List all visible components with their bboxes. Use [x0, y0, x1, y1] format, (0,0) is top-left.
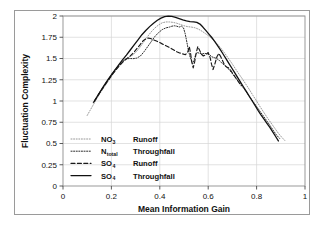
- legend-label-suffix: Throughfall: [133, 172, 175, 181]
- y-tick-label: 0.75: [41, 118, 57, 127]
- y-tick-label: 1: [53, 97, 58, 106]
- y-tick-label: 2: [53, 12, 58, 21]
- x-tick-label: 0.6: [203, 192, 215, 201]
- x-axis-title: Mean Information Gain: [138, 204, 230, 214]
- x-tick-label: 0: [61, 192, 66, 201]
- y-tick-label: 1.75: [41, 33, 57, 42]
- x-tick-label: 0.4: [154, 192, 166, 201]
- y-axis: 00.250.50.7511.251.51.752: [41, 12, 63, 191]
- y-axis-title: Fluctuation Complexity: [20, 54, 30, 148]
- legend-label-subscript: total: [107, 151, 119, 157]
- legend-label-suffix: Runoff: [133, 159, 158, 168]
- legend-label-main: SO: [101, 172, 112, 181]
- chart-canvas: 00.250.50.7511.251.51.75200.20.40.60.81M…: [15, 11, 309, 214]
- x-tick-label: 1: [303, 192, 308, 201]
- legend-label-subscript: 3: [112, 139, 115, 145]
- y-tick-label: 1.25: [41, 76, 57, 85]
- legend-label-subscript: 4: [112, 163, 115, 169]
- legend-label-subscript: 4: [112, 175, 115, 181]
- x-tick-label: 0.2: [106, 192, 118, 201]
- legend-label-main: NO: [101, 135, 112, 144]
- legend-label-main: SO: [101, 159, 112, 168]
- y-tick-label: 1.5: [46, 54, 58, 63]
- x-tick-label: 0.8: [251, 192, 263, 201]
- y-tick-label: 0.5: [46, 139, 58, 148]
- screenshot-root: 00.250.50.7511.251.51.75200.20.40.60.81M…: [0, 0, 324, 226]
- y-tick-label: 0: [53, 182, 58, 191]
- x-axis: 00.20.40.60.81: [61, 186, 308, 201]
- figure-frame: 00.250.50.7511.251.51.75200.20.40.60.81M…: [14, 10, 310, 215]
- legend-label-main: N: [101, 147, 106, 156]
- legend-label-suffix: Throughfall: [133, 147, 175, 156]
- y-tick-label: 0.25: [41, 161, 57, 170]
- legend-label-suffix: Runoff: [133, 135, 158, 144]
